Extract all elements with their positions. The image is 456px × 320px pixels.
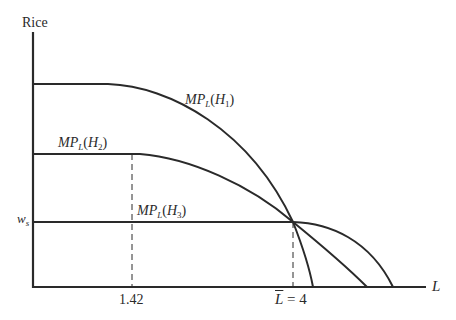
- wage-label: ws: [17, 212, 29, 228]
- curve-label-h3: MPL(H3): [137, 204, 186, 220]
- curve-label-h1-main: MP: [185, 92, 205, 107]
- curve-label-h3-h: H: [167, 203, 177, 218]
- curve-label-h3-close: ): [182, 203, 187, 218]
- curve-label-h2-close: ): [103, 135, 108, 150]
- x-tick-1-42: 1.42: [119, 293, 144, 307]
- wage-label-main: w: [17, 211, 26, 226]
- curve-label-h2: MPL(H2): [58, 136, 107, 152]
- curve-mp-h1: [33, 84, 313, 287]
- wage-label-sub: s: [26, 218, 30, 228]
- curve-label-h1-h: H: [215, 92, 225, 107]
- y-axis-label: Rice: [22, 16, 48, 30]
- curve-label-h2-main: MP: [58, 135, 78, 150]
- diagram-lines: [0, 0, 456, 320]
- curve-label-h1-close: ): [230, 92, 235, 107]
- curve-label-h1: MPL(H1): [185, 93, 234, 109]
- curve-label-h2-h: H: [88, 135, 98, 150]
- curve-mp-h3: [33, 222, 393, 287]
- curve-mp-h2: [33, 154, 367, 287]
- diagram-canvas: Rice L ws 1.42 L = 4 MPL(H1) MPL(H2) MPL…: [0, 0, 456, 320]
- x-tick-l-bar-value: = 4: [283, 291, 306, 307]
- x-tick-l-bar: L = 4: [275, 292, 307, 307]
- x-axis-label: L: [432, 279, 440, 294]
- curve-label-h3-main: MP: [137, 203, 157, 218]
